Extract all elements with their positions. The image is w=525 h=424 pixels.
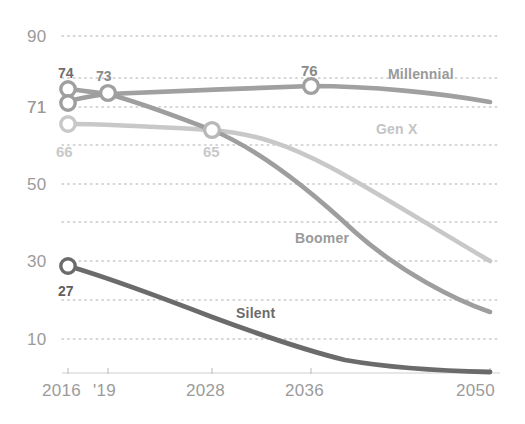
y-axis-label-10: 10 [27,330,47,349]
x-axis-label-2028: 2028 [186,381,225,400]
marker-genx-2028[interactable] [205,123,220,138]
marker-genx-2016[interactable] [61,117,75,131]
series-labels-group: Millennial Gen X Boomer Silent [236,66,454,321]
point-label-76: 76 [301,62,318,79]
y-axis-label-50: 50 [27,175,47,194]
series-label-boomer: Boomer [295,230,349,246]
point-label-71: 71 [27,98,47,117]
generation-population-line-chart: 90 71 50 30 10 2016 '19 2028 2036 2050 [0,0,525,424]
point-label-66: 66 [56,143,73,160]
point-label-73: 73 [96,68,112,84]
y-axis-label-90: 90 [27,27,47,46]
marker-millennial-2036[interactable] [304,79,319,94]
marker-boomer-2016[interactable] [61,96,75,110]
point-label-65: 65 [203,143,220,160]
y-axis-labels-group: 90 71 50 30 10 [27,27,47,349]
series-label-millennial: Millennial [388,66,454,82]
point-label-74: 74 [58,65,74,81]
y-axis-label-30: 30 [27,252,47,271]
point-label-27: 27 [58,283,74,299]
x-axis-label-2036: 2036 [285,381,324,400]
marker-silent-2016[interactable] [61,259,75,273]
x-axis-label-2016: 2016 [42,381,81,400]
chart-plot-area: 90 71 50 30 10 2016 '19 2028 2036 2050 [0,0,525,424]
x-axis-labels-group: 2016 '19 2028 2036 2050 [42,381,495,400]
marker-millennial-2019[interactable] [101,86,116,101]
data-point-markers-group [61,79,319,274]
x-axis-label-2050: 2050 [456,381,495,400]
series-label-silent: Silent [236,305,275,321]
x-axis-label-2019: '19 [93,381,116,400]
marker-millennial-2016[interactable] [61,82,75,96]
series-label-genx: Gen X [376,121,418,137]
